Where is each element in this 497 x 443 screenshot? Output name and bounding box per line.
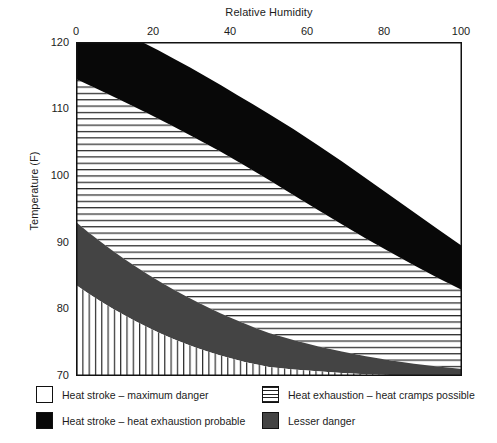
y-tick-label-70: 70: [57, 369, 69, 381]
y-tick-label-80: 80: [57, 302, 69, 314]
plot-svg: [76, 42, 462, 376]
legend-swatch-white-icon: [36, 386, 53, 403]
chart-legend: Heat stroke – maximum danger Heat stroke…: [0, 384, 497, 443]
legend-item-heat-stroke-maximum-danger: Heat stroke – maximum danger: [36, 386, 208, 403]
x-tick-label-0: 0: [73, 25, 79, 37]
legend-label: Heat stroke – maximum danger: [62, 389, 208, 401]
legend-item-heat-stroke-heat-exhaustion-probable: Heat stroke – heat exhaustion probable: [36, 412, 245, 429]
x-tick-label-100: 100: [452, 25, 470, 37]
legend-swatch-gray-icon: [262, 412, 279, 429]
heat-index-chart-figure: Relative Humidity 0 20 40 60 80 100 120 …: [0, 0, 497, 443]
x-tick-label-40: 40: [224, 25, 236, 37]
legend-label: Heat exhaustion – heat cramps possible: [288, 389, 475, 401]
y-tick-label-90: 90: [57, 236, 69, 248]
y-tick-label-120: 120: [51, 36, 69, 48]
x-tick-label-20: 20: [147, 25, 159, 37]
y-tick-label-100: 100: [51, 169, 69, 181]
x-tick-label-60: 60: [301, 25, 313, 37]
x-tick-label-80: 80: [378, 25, 390, 37]
legend-swatch-black-icon: [36, 412, 53, 429]
legend-label: Heat stroke – heat exhaustion probable: [62, 415, 245, 427]
chart-title: Relative Humidity: [76, 6, 462, 18]
legend-item-heat-exhaustion-heat-cramps-possible: Heat exhaustion – heat cramps possible: [262, 386, 475, 403]
y-axis-title: Temperature (F): [28, 131, 40, 251]
legend-item-lesser-danger: Lesser danger: [262, 412, 355, 429]
y-tick-label-110: 110: [51, 102, 69, 114]
legend-label: Lesser danger: [288, 415, 355, 427]
legend-swatch-horizontal-hatch-icon: [262, 386, 279, 403]
plot-area: [76, 42, 462, 376]
